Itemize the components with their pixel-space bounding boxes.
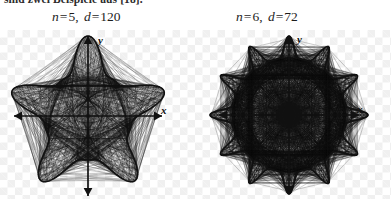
label-left-n-var: n: [52, 9, 59, 24]
figure-right: x y: [196, 30, 391, 199]
x-axis-label-left: x: [160, 104, 167, 116]
figure-right-plot: x y: [196, 30, 391, 199]
label-left-comma: ,: [75, 9, 80, 24]
figure-left: x y: [0, 30, 196, 199]
figure-labels-row: n=5, d=120 n=6, d=72: [0, 9, 391, 29]
y-axis-label-left: y: [96, 34, 103, 46]
axes-left: [14, 36, 162, 196]
transparency-checkerboard-canvas: x y x y: [0, 30, 391, 199]
figure-left-plot: x y: [0, 30, 196, 199]
x-axis-label-right: x: [356, 103, 363, 115]
label-left-d-var: d: [84, 9, 91, 24]
label-right-d-val: 72: [284, 9, 298, 24]
figure-label-left: n=5, d=120: [52, 9, 121, 25]
caption-text: sind zwei Beispiele aus [18].: [4, 0, 143, 5]
label-right-comma: ,: [259, 9, 264, 24]
label-left-d-eq: =: [91, 9, 101, 24]
axes-right: [219, 36, 359, 194]
label-right-d-var: d: [268, 9, 275, 24]
figure-label-right: n=6, d=72: [236, 9, 298, 25]
label-right-n-var: n: [236, 9, 243, 24]
figure-page: sind zwei Beispiele aus [18]. n=5, d=120…: [0, 0, 391, 199]
label-right-d-eq: =: [275, 9, 285, 24]
y-axis-label-right: y: [295, 33, 302, 45]
caption-strip: sind zwei Beispiele aus [18].: [0, 0, 391, 9]
label-right-n-eq: =: [243, 9, 253, 24]
label-left-d-val: 120: [100, 9, 120, 24]
label-left-n-eq: =: [59, 9, 69, 24]
